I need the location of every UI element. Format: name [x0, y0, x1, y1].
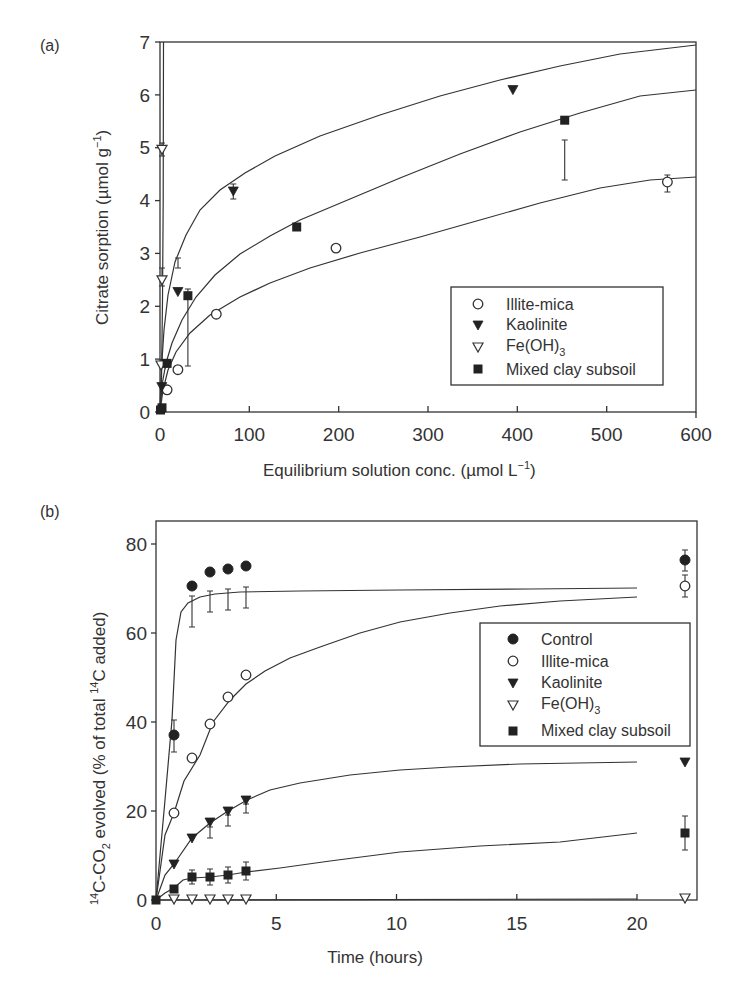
y-tick-label: 5	[139, 137, 150, 158]
x-tick-label: 0	[151, 913, 162, 934]
legend-marker-mixed-clay-icon	[474, 365, 483, 374]
y-tick-label: 6	[139, 85, 150, 106]
legend-marker-control-icon	[508, 634, 518, 644]
x-tick-label: 15	[506, 913, 527, 934]
panel-a-y-axis: 0 1 2 3 4 5 6 7	[139, 32, 160, 423]
y-tick-label: 4	[139, 190, 150, 211]
y-tick-label: 0	[139, 402, 150, 423]
x-tick-label: 10	[386, 913, 407, 934]
panel-b-label: (b)	[40, 503, 60, 520]
y-tick-label: 3	[139, 243, 150, 264]
y-tick-label: 20	[126, 801, 147, 822]
y-tick-label: 60	[126, 623, 147, 644]
legend-item-mixed-clay: Mixed clay subsoil	[506, 361, 636, 378]
panel-b: (b) 0 20 40 60 80 0 5 10 15 20	[40, 503, 697, 967]
y-tick-label: 0	[136, 890, 147, 911]
panel-b-y-axis: 0 20 40 60 80	[126, 534, 156, 911]
x-tick-label: 20	[626, 913, 647, 934]
panel-b-x-axis-label: Time (hours)	[327, 948, 423, 967]
y-tick-label: 7	[139, 32, 150, 53]
x-tick-label: 100	[233, 424, 265, 445]
x-tick-label: 500	[591, 424, 623, 445]
legend-item-kaolinite: Kaolinite	[541, 674, 602, 691]
x-tick-label: 5	[271, 913, 282, 934]
panel-a-label: (a)	[40, 37, 60, 54]
x-tick-label: 400	[501, 424, 533, 445]
y-tick-label: 80	[126, 534, 147, 555]
legend-item-illite: Illite-mica	[506, 296, 574, 313]
legend-marker-mixed-clay-icon	[509, 727, 518, 736]
panel-a: (a) 0 1 2 3 4 5 6 7	[40, 32, 712, 480]
legend-item-control: Control	[541, 631, 593, 648]
y-tick-label: 40	[126, 712, 147, 733]
panel-b-y-axis-label: 14C-CO2 evolved (% of total 14C added)	[88, 612, 112, 905]
figure: (a) 0 1 2 3 4 5 6 7	[0, 0, 738, 994]
x-tick-label: 0	[155, 424, 166, 445]
legend-marker-illite-icon	[508, 656, 518, 666]
x-tick-label: 300	[412, 424, 444, 445]
panel-b-legend: Control Illite-mica Kaolinite Fe(OH)3 Mi…	[480, 623, 690, 746]
x-tick-label: 200	[323, 424, 355, 445]
panel-a-legend: Illite-mica Kaolinite Fe(OH)3 Mixed clay…	[451, 287, 663, 385]
y-tick-label: 2	[139, 296, 150, 317]
y-tick-label: 1	[139, 349, 150, 370]
x-tick-label: 600	[680, 424, 712, 445]
legend-item-kaolinite: Kaolinite	[506, 316, 567, 333]
legend-marker-illite-icon	[473, 299, 483, 309]
legend-item-mixed-clay: Mixed clay subsoil	[541, 722, 671, 739]
panel-a-y-axis-label: Citrate sorption (µmol g−1)	[91, 130, 112, 325]
panel-a-x-axis-label: Equilibrium solution conc. (µmol L−1)	[263, 459, 536, 480]
legend-item-illite: Illite-mica	[541, 653, 609, 670]
